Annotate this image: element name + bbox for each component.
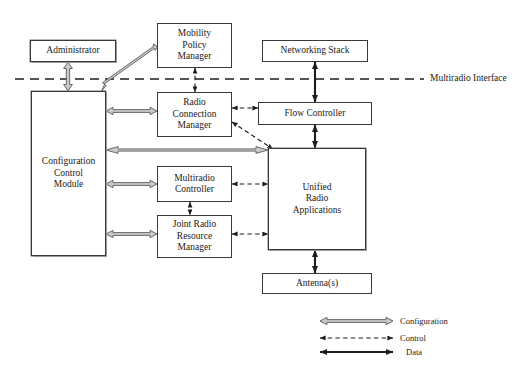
node-configuration-control-module[interactable]: ConfigurationControlModule [31,91,106,256]
connector-config-radioconn [106,107,157,114]
node-antenna[interactable]: Antenna(s) [262,273,372,294]
node-unified-radio-applications[interactable]: UnifiedRadioApplications [268,148,366,250]
node-configuration-control-module-label: ConfigurationControlModule [40,156,97,191]
node-unified-radio-applications-label: UnifiedRadioApplications [291,182,344,217]
node-mobility-policy-manager[interactable]: MobilityPolicyManager [157,23,232,68]
legend-control-label: Control [400,333,426,343]
node-mobility-policy-manager-label: MobilityPolicyManager [176,28,214,63]
node-administrator[interactable]: Administrator [30,40,116,62]
connector-radioconn-unified [232,122,273,149]
node-multiradio-controller-label: MultiradioController [172,173,217,196]
node-joint-radio-resource-manager-label: Joint RadioResourceManager [171,219,219,254]
legend-configuration-label: Configuration [400,316,448,326]
node-networking-stack-label: Networking Stack [279,45,352,57]
node-multiradio-controller[interactable]: MultiradioController [157,166,232,202]
legend-glyphs [320,317,393,352]
node-joint-radio-resource-manager[interactable]: Joint RadioResourceManager [157,215,232,258]
legend-data-label: Data [406,347,422,357]
connector-config-multiradio [106,180,157,187]
connector-config-jointradio [106,230,157,237]
legend-configuration-icon [320,317,393,324]
node-flow-controller[interactable]: Flow Controller [258,102,372,125]
node-radio-connection-manager-label: RadioConnectionManager [171,97,219,132]
multiradio-interface-label: Multiradio Interface [430,73,507,85]
node-administrator-label: Administrator [44,45,101,57]
node-antenna-label: Antenna(s) [294,278,340,290]
node-networking-stack[interactable]: Networking Stack [262,40,368,62]
node-radio-connection-manager[interactable]: RadioConnectionManager [157,92,232,137]
node-flow-controller-label: Flow Controller [283,108,348,120]
connector-config-unified [106,147,268,154]
diagram-canvas: Administrator ConfigurationControlModule… [0,0,514,367]
connector-administrator-config [64,62,73,91]
